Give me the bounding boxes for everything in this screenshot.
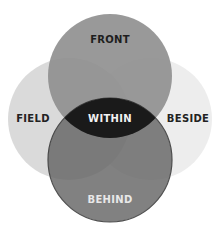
front-label: FRONT bbox=[90, 34, 130, 45]
field-label: FIELD bbox=[16, 113, 50, 124]
venn-diagram: FRONT FIELD WITHIN BESIDE BEHIND bbox=[0, 0, 220, 236]
within-label: WITHIN bbox=[88, 113, 132, 124]
beside-label: BESIDE bbox=[167, 113, 209, 124]
behind-label: BEHIND bbox=[87, 194, 132, 205]
